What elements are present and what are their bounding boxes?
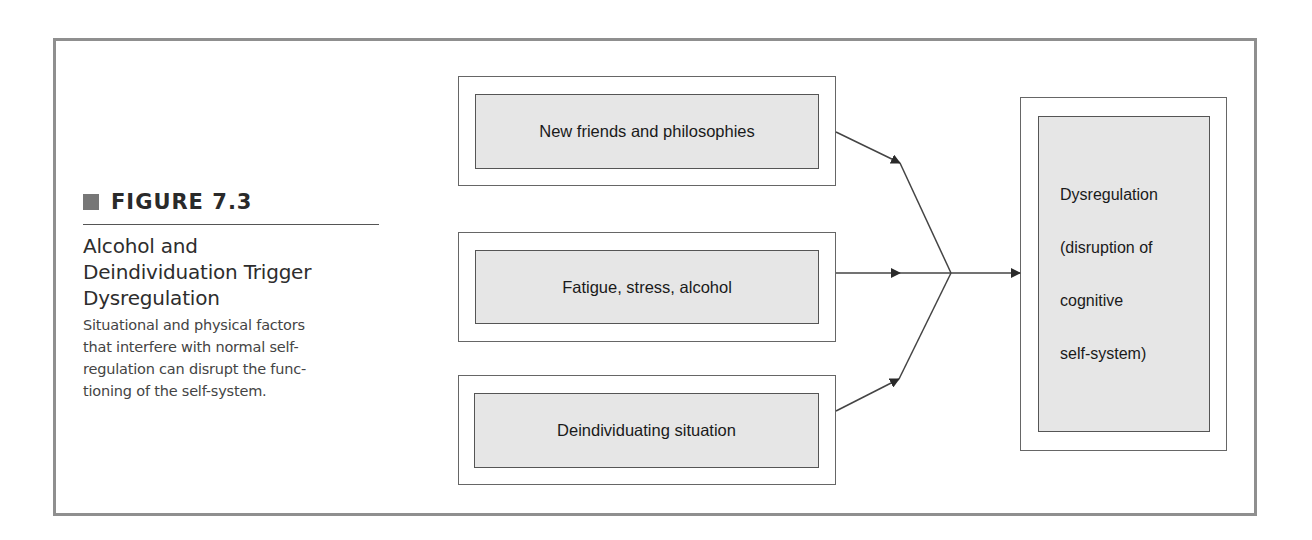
connector-top bbox=[900, 163, 951, 273]
arrow-deindividuating bbox=[836, 379, 899, 411]
flow-arrows bbox=[0, 0, 1312, 540]
arrow-new-friends bbox=[836, 132, 900, 163]
connector-bottom bbox=[899, 273, 951, 379]
